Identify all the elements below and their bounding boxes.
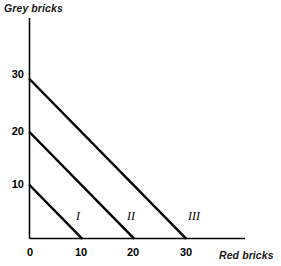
x-tick-label-20: 20 <box>121 246 145 258</box>
chart-container: Grey bricks Red bricks 30 20 10 0 10 20 … <box>0 0 281 266</box>
x-tick-label-30: 30 <box>174 246 198 258</box>
y-tick-label-30: 30 <box>2 68 24 80</box>
curve-label-i: I <box>71 209 85 224</box>
x-tick-label-0: 0 <box>18 246 42 258</box>
series-line-iii <box>30 80 186 239</box>
curve-label-iii: III <box>183 209 205 224</box>
curve-label-ii: II <box>122 209 140 224</box>
y-axis-title: Grey bricks <box>4 2 63 14</box>
x-axis-title: Red bricks <box>219 249 274 261</box>
y-tick-label-10: 10 <box>2 178 24 190</box>
y-tick-label-20: 20 <box>2 125 24 137</box>
x-tick-label-10: 10 <box>69 246 93 258</box>
chart-plot-area <box>0 0 281 266</box>
